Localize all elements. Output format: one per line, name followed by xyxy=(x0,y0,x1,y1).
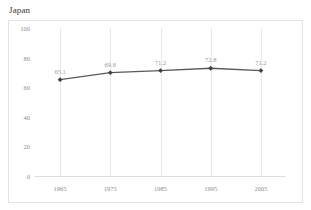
y-tick-label-20: 20 xyxy=(24,143,31,150)
data-point-1995 xyxy=(208,66,213,71)
y-tick-label-100: 100 xyxy=(20,25,30,32)
data-point-1975 xyxy=(108,70,113,75)
data-label-1985: 71.2 xyxy=(155,59,166,66)
y-tick-label-0: 0 xyxy=(27,173,30,180)
x-tick-label-1985: 1985 xyxy=(154,185,167,192)
plot-area: 100806040200 19651975198519952005 65.169… xyxy=(35,28,286,176)
data-label-1975: 69.8 xyxy=(105,61,116,68)
y-tick-label-80: 80 xyxy=(24,54,31,61)
x-tick-label-1965: 1965 xyxy=(54,185,67,192)
y-tick-label-40: 40 xyxy=(24,113,31,120)
data-label-2005: 71.2 xyxy=(255,59,266,66)
chart-card: Japan 100806040200 19651975198519952005 … xyxy=(0,0,311,210)
x-axis-line xyxy=(35,176,286,177)
series-line-japan xyxy=(35,28,286,176)
data-point-1985 xyxy=(158,68,163,73)
page-title: Japan xyxy=(9,5,30,15)
data-label-1995: 72.8 xyxy=(205,56,216,63)
y-tick-label-60: 60 xyxy=(24,84,31,91)
x-tick-label-1975: 1975 xyxy=(104,185,117,192)
data-point-1965 xyxy=(58,77,63,82)
x-tick-label-2005: 2005 xyxy=(254,185,267,192)
data-point-2005 xyxy=(259,68,264,73)
data-label-1965: 65.1 xyxy=(54,68,65,75)
x-tick-label-1995: 1995 xyxy=(204,185,217,192)
